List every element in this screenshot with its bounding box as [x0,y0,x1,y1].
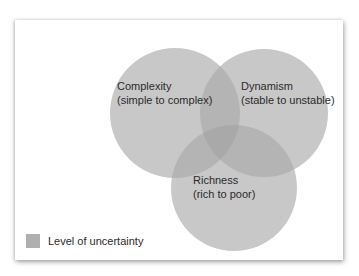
complexity-subtitle: (simple to complex) [117,93,212,107]
dynamism-subtitle: (stable to unstable) [241,93,335,107]
dynamism-label: Dynamism (stable to unstable) [241,79,335,107]
legend: Level of uncertainty [26,234,143,248]
richness-title: Richness [193,173,255,187]
richness-label: Richness (rich to poor) [193,173,255,201]
complexity-label: Complexity (simple to complex) [117,79,212,107]
legend-label: Level of uncertainty [48,235,143,247]
dynamism-title: Dynamism [241,79,335,93]
complexity-title: Complexity [117,79,212,93]
legend-swatch [26,234,40,248]
richness-subtitle: (rich to poor) [193,187,255,201]
